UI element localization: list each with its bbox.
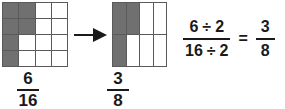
fraction-model-eighths xyxy=(112,2,167,67)
fraction-numerator: 6 xyxy=(8,70,48,88)
grid-cell xyxy=(3,3,19,19)
grid-cell xyxy=(140,35,154,67)
equation-left-numerator: 6 ÷ 2 xyxy=(187,18,226,36)
equals-sign: = xyxy=(237,30,248,48)
grid-cell xyxy=(127,3,141,35)
grid-cell xyxy=(113,3,127,35)
grid-cell xyxy=(36,19,52,35)
denominator-divisor: 2 xyxy=(220,42,229,60)
grid-cell xyxy=(154,3,168,35)
equation-right-numerator: 3 xyxy=(256,18,275,36)
grid-cell xyxy=(154,35,168,67)
grid-cell xyxy=(36,3,52,19)
grid-cell xyxy=(52,35,68,51)
grid-cell xyxy=(127,35,141,67)
fraction-label-six-sixteenths: 6 16 xyxy=(8,70,48,109)
fraction-label-three-eighths: 3 8 xyxy=(98,70,138,109)
equation-right-denominator: 8 xyxy=(256,42,275,60)
fraction-model-sixteenths xyxy=(2,2,68,67)
grid-cell xyxy=(19,51,35,67)
fraction-denominator: 16 xyxy=(8,92,48,109)
division-operator-icon: ÷ xyxy=(207,42,216,60)
grid-cell xyxy=(36,51,52,67)
grid-cell xyxy=(19,35,35,51)
grid-cell xyxy=(113,35,127,67)
division-operator-icon: ÷ xyxy=(202,18,211,36)
denominator-value: 16 xyxy=(185,42,203,60)
equation-left-denominator: 16 ÷ 2 xyxy=(183,42,230,60)
right-arrow-icon xyxy=(74,27,107,43)
fraction-denominator: 8 xyxy=(98,92,138,109)
grid-cell xyxy=(52,3,68,19)
equation-left-fraction: 6 ÷ 2 16 ÷ 2 xyxy=(183,18,230,60)
grid-cell xyxy=(36,35,52,51)
equation-right-fraction: 3 8 xyxy=(256,18,275,60)
numerator-divisor: 2 xyxy=(215,18,224,36)
numerator-value: 6 xyxy=(189,18,198,36)
grid-cell xyxy=(19,3,35,19)
grid-cell xyxy=(52,19,68,35)
grid-cell xyxy=(19,19,35,35)
simplification-equation: 6 ÷ 2 16 ÷ 2 = 3 8 xyxy=(183,13,275,65)
grid-cell xyxy=(3,51,19,67)
grid-cell xyxy=(52,51,68,67)
fraction-bar xyxy=(183,38,230,40)
fraction-numerator: 3 xyxy=(98,70,138,88)
diagram-canvas: 6 16 3 8 6 ÷ 2 16 ÷ 2 = 3 8 xyxy=(0,0,285,109)
fraction-bar xyxy=(256,38,275,40)
grid-cell xyxy=(3,35,19,51)
grid-cell xyxy=(3,19,19,35)
grid-cell xyxy=(140,3,154,35)
